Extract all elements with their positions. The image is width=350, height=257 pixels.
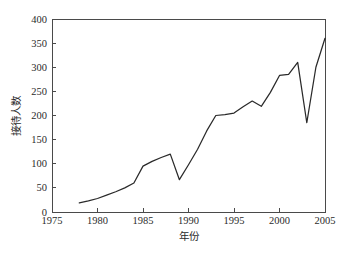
- data-line-series-0: [79, 38, 325, 203]
- y-tick-label: 400: [31, 14, 47, 25]
- y-tick-label: 100: [31, 158, 47, 169]
- line-chart: 050100150200250300350400 197519801985199…: [0, 0, 350, 257]
- x-axis-tick-labels: 1975198019851990199520002005: [42, 215, 336, 226]
- axes-frame: [52, 19, 325, 212]
- x-tick-label: 1975: [42, 215, 63, 226]
- x-tick-label: 1985: [133, 215, 154, 226]
- y-axis-tick-labels: 050100150200250300350400: [31, 14, 47, 218]
- data-series-group: [79, 38, 325, 203]
- x-axis-ticks: [52, 208, 325, 212]
- x-axis-title: 年份: [179, 230, 200, 242]
- x-tick-label: 2005: [315, 215, 336, 226]
- y-tick-label: 50: [37, 182, 48, 193]
- x-tick-label: 1980: [87, 215, 108, 226]
- chart-figure: 050100150200250300350400 197519801985199…: [0, 0, 350, 257]
- y-tick-label: 250: [31, 86, 47, 97]
- y-tick-label: 300: [31, 62, 47, 73]
- plot-frame: [52, 19, 325, 212]
- y-axis-title: 接待人数: [10, 95, 22, 136]
- y-tick-label: 350: [31, 38, 47, 49]
- y-tick-label: 200: [31, 110, 47, 121]
- x-tick-label: 1990: [178, 215, 199, 226]
- y-tick-label: 150: [31, 134, 47, 145]
- x-tick-label: 1995: [224, 215, 245, 226]
- x-tick-label: 2000: [269, 215, 290, 226]
- y-axis-ticks: [52, 19, 56, 212]
